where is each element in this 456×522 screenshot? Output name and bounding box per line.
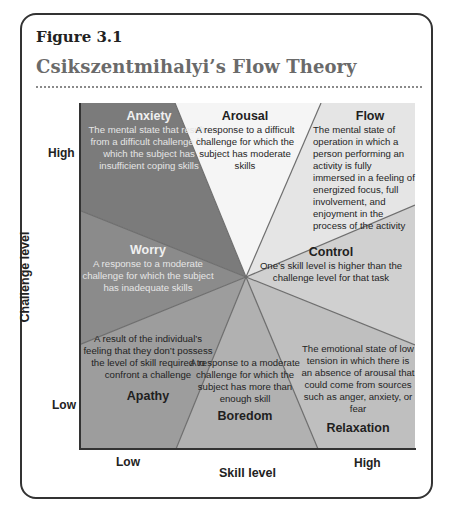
state-boredom: A response to a moderate challenge for w…: [184, 357, 306, 424]
state-flow-title: Flow: [311, 109, 415, 123]
state-control-description: One’s skill level is higher than the cha…: [249, 260, 413, 284]
state-relaxation: The emotional state of low tension in wh…: [301, 343, 415, 436]
y-tick-high: High: [48, 146, 75, 160]
state-boredom-description: A response to a moderate challenge for w…: [184, 357, 306, 405]
state-arousal-description: A response to a difficult challenge for …: [193, 124, 297, 172]
state-boredom-title: Boredom: [184, 409, 306, 423]
state-arousal-title: Arousal: [193, 109, 297, 123]
y-tick-low: Low: [52, 398, 76, 412]
state-relaxation-title: Relaxation: [301, 421, 415, 435]
state-control: Control One’s skill level is higher than…: [249, 245, 413, 284]
flow-diagram: Anxiety The mental state that results fr…: [79, 103, 415, 449]
state-relaxation-description: The emotional state of low tension in wh…: [301, 343, 415, 415]
title-divider: [36, 86, 422, 88]
state-worry-title: Worry: [81, 243, 215, 257]
state-worry: Worry A response to a moderate challenge…: [81, 243, 215, 294]
state-arousal: Arousal A response to a difficult challe…: [193, 109, 297, 172]
x-tick-low: Low: [116, 455, 140, 469]
state-control-title: Control: [249, 245, 413, 259]
figure-label: Figure 3.1: [36, 28, 123, 46]
x-axis-line: [79, 448, 416, 450]
figure-title: Csikszentmihalyi’s Flow Theory: [36, 56, 357, 77]
state-flow: Flow The mental state of operation in wh…: [311, 109, 415, 232]
y-axis-line: [79, 103, 81, 450]
state-worry-description: A response to a moderate challenge for w…: [81, 258, 215, 294]
x-tick-high: High: [354, 456, 381, 470]
y-axis-label: Challenge level: [18, 217, 32, 337]
x-axis-label: Skill level: [219, 466, 276, 480]
state-flow-description: The mental state of operation in which a…: [311, 124, 415, 232]
